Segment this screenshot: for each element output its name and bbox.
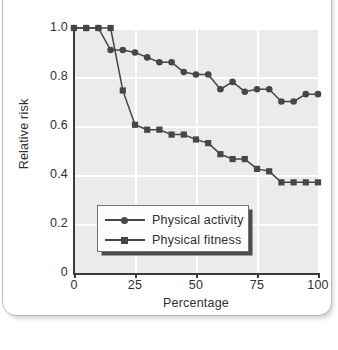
data-point-square <box>315 179 321 185</box>
data-point-square <box>254 166 260 172</box>
series-physical-activity <box>71 25 322 105</box>
data-point-square <box>205 140 211 146</box>
data-point-circle <box>254 86 261 93</box>
legend-marker-square-icon <box>105 233 145 247</box>
data-point-square <box>156 127 162 133</box>
data-point-square <box>217 151 223 157</box>
data-point-circle <box>120 47 127 54</box>
data-point-circle <box>303 91 310 98</box>
data-point-circle <box>217 86 224 93</box>
data-point-circle <box>278 98 285 105</box>
legend-item-physical-fitness: Physical fitness <box>98 230 248 250</box>
data-point-square <box>108 25 114 31</box>
data-point-square <box>278 179 284 185</box>
data-point-square <box>266 168 272 174</box>
x-axis-tick <box>318 273 320 278</box>
data-point-square <box>169 131 175 137</box>
data-point-circle <box>266 86 273 93</box>
data-point-square <box>95 25 101 31</box>
data-point-square <box>144 127 150 133</box>
legend-marker-circle-icon <box>105 213 145 227</box>
series-line <box>74 28 318 102</box>
chart-legend: Physical activity Physical fitness <box>97 205 249 252</box>
data-point-square <box>303 179 309 185</box>
x-axis-tick <box>74 273 76 278</box>
x-axis-tick <box>196 273 198 278</box>
y-axis-title: Relative risk <box>17 69 31 199</box>
data-point-circle <box>290 98 297 105</box>
data-point-circle <box>181 69 188 76</box>
data-point-circle <box>229 79 236 86</box>
data-point-square <box>193 136 199 142</box>
data-point-square <box>83 25 89 31</box>
data-point-circle <box>168 59 175 66</box>
data-point-circle <box>205 71 212 78</box>
data-point-square <box>230 156 236 162</box>
data-point-circle <box>156 59 163 66</box>
data-point-square <box>120 87 126 93</box>
x-axis-tick <box>135 273 137 278</box>
data-point-circle <box>242 88 249 95</box>
data-point-square <box>71 25 77 31</box>
data-point-circle <box>132 49 139 56</box>
data-point-square <box>242 156 248 162</box>
legend-label: Physical activity <box>152 213 244 227</box>
data-point-circle <box>144 54 151 61</box>
data-point-circle <box>315 91 322 98</box>
legend-label: Physical fitness <box>152 233 241 247</box>
x-axis-tick <box>257 273 259 278</box>
data-point-square <box>132 122 138 128</box>
data-point-square <box>291 179 297 185</box>
x-axis-title: Percentage <box>74 296 318 310</box>
data-point-circle <box>107 47 114 54</box>
data-point-circle <box>193 71 200 78</box>
data-point-square <box>181 131 187 137</box>
legend-item-physical-activity: Physical activity <box>98 210 248 230</box>
